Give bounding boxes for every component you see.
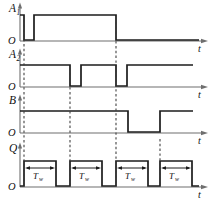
a2-time-label: t <box>198 89 201 100</box>
pw4-right-arrow <box>186 166 191 170</box>
a1-time-label: t <box>198 43 201 54</box>
b-signal-label: B <box>9 94 16 106</box>
channel-a2: A 2 O t <box>8 48 208 100</box>
a1-origin-label: O <box>8 35 16 46</box>
a2-origin-label: O <box>8 81 16 92</box>
timing-diagram-figure: A 1 O t A 2 O t B O t <box>0 0 215 203</box>
pw2-left-arrow <box>71 166 76 170</box>
pw4-label-sub: w <box>175 176 179 182</box>
channel-a1: A 1 O t <box>8 2 208 54</box>
q-signal-label: Q <box>9 142 18 154</box>
q-origin-label: O <box>8 181 16 192</box>
b-time-label: t <box>198 135 201 146</box>
timing-diagram-canvas: A 1 O t A 2 O t B O t <box>0 0 215 203</box>
b-vertical-axis-arrow <box>18 95 22 101</box>
a2-waveform <box>20 65 193 86</box>
pw1-right-arrow <box>50 166 55 170</box>
channel-b: B O t <box>8 94 208 146</box>
pw1-label-sub: w <box>39 176 43 182</box>
a1-signal-subscript: 1 <box>17 9 21 17</box>
pulse-width-dimension-1: T w <box>25 166 55 182</box>
pw3-right-arrow <box>142 166 147 170</box>
b-time-axis-arrow <box>201 131 208 135</box>
a1-waveform <box>20 15 199 40</box>
b-waveform <box>20 111 193 132</box>
b-origin-label: O <box>8 127 16 138</box>
pw4-left-arrow <box>161 166 166 170</box>
pw2-right-arrow <box>96 166 101 170</box>
q-vertical-axis-arrow <box>18 143 22 149</box>
pw3-label-sub: w <box>131 176 135 182</box>
pulse-width-dimension-2: T w <box>71 166 101 182</box>
a2-time-axis-arrow <box>201 85 208 89</box>
pw1-left-arrow <box>25 166 30 170</box>
pulse-width-dimension-3: T w <box>117 166 147 182</box>
channel-q: Q O t T w T w <box>8 142 208 200</box>
pulse-width-dimension-4: T w <box>161 166 191 182</box>
a1-time-axis-arrow <box>201 39 208 43</box>
q-time-axis-arrow <box>201 185 208 189</box>
pw3-left-arrow <box>117 166 122 170</box>
a2-signal-subscript: 2 <box>17 55 21 63</box>
q-time-label: t <box>198 189 201 200</box>
pw2-label-sub: w <box>85 176 89 182</box>
